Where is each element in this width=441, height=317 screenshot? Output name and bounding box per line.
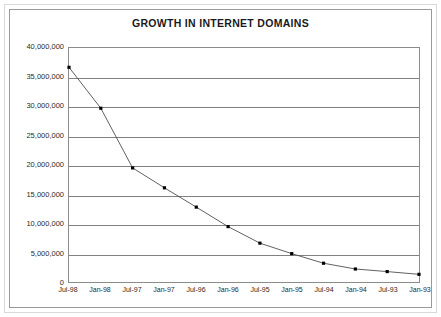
data-series-layer [69, 48, 419, 282]
data-point [258, 242, 261, 245]
x-axis-labels: Jul-98Jan-98Jul-97Jan-97Jul-96Jan-96Jul-… [68, 286, 420, 300]
series-line [69, 67, 419, 274]
y-axis-labels: 40,000,00035,000,00030,000,00025,000,000… [0, 47, 64, 283]
data-point [386, 270, 389, 273]
chart-title: GROWTH IN INTERNET DOMAINS [0, 17, 441, 29]
y-tick-label: 35,000,000 [2, 72, 64, 81]
data-point [131, 166, 134, 169]
data-point [227, 225, 230, 228]
data-point [195, 206, 198, 209]
y-tick-label: 30,000,000 [2, 101, 64, 110]
data-point [290, 252, 293, 255]
y-tick-label: 5,000,000 [2, 249, 64, 258]
data-point [322, 262, 325, 265]
chart-frame: GROWTH IN INTERNET DOMAINS 40,000,00035,… [0, 0, 441, 317]
x-tick-label: Jan-93 [400, 286, 440, 293]
y-tick-label: 20,000,000 [2, 160, 64, 169]
y-tick-label: 10,000,000 [2, 219, 64, 228]
data-point [67, 66, 70, 69]
data-point [163, 186, 166, 189]
y-tick-label: 40,000,000 [2, 42, 64, 51]
y-tick-label: 15,000,000 [2, 190, 64, 199]
data-point [99, 107, 102, 110]
data-point [417, 273, 420, 276]
y-tick-label: 25,000,000 [2, 131, 64, 140]
plot-area [68, 47, 420, 283]
series-markers [67, 66, 420, 276]
data-point [354, 267, 357, 270]
